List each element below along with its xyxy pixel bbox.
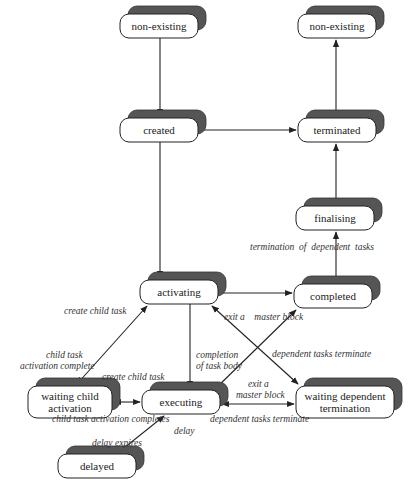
state-waiting-dependent: waiting dependenttermination xyxy=(296,378,402,418)
state-label: activating xyxy=(157,286,201,298)
edge-label-lbl-exit-master-2a: exit a xyxy=(248,379,269,389)
edge-label-lbl-create-child-2: create child task xyxy=(102,372,165,382)
state-activating: activating xyxy=(140,272,226,304)
state-label: delayed xyxy=(80,460,115,472)
state-label: executing xyxy=(160,396,203,408)
edge-label-lbl-delay: delay xyxy=(174,426,195,436)
edge-label-lbl-dep-terminate-1: dependent tasks terminate xyxy=(272,349,371,359)
state-non-existing-2: non-existing xyxy=(298,6,384,38)
edge-label-lbl-child-act-complete-1: child task xyxy=(46,350,83,360)
edge-label-lbl-completion-2: of task body xyxy=(196,361,243,371)
state-executing: executing xyxy=(142,382,228,414)
edge-label-lbl-completion-1: completion xyxy=(196,350,238,360)
edge-label-lbl-delay-expires: delay expires xyxy=(92,438,142,448)
state-created: created xyxy=(120,110,206,142)
state-non-existing-1: non-existing xyxy=(120,6,206,38)
edge-label-lbl-term-dep: termination of dependent tasks xyxy=(250,242,374,252)
state-waiting-child: waiting childactivation xyxy=(28,378,120,418)
state-label: terminated xyxy=(313,124,361,136)
state-label: completed xyxy=(310,290,356,302)
edge-label-lbl-child-act-complete-2: activation complete xyxy=(20,361,95,371)
state-finalising: finalising xyxy=(296,198,382,230)
state-delayed: delayed xyxy=(58,446,144,478)
edge-label-lbl-child-act-completes: child task activation completes xyxy=(52,414,170,424)
state-label: termination xyxy=(320,402,371,414)
state-label: activation xyxy=(48,402,92,414)
state-label: non-existing xyxy=(310,20,365,32)
edge-label-lbl-dep-terminate-2: dependent tasks terminate xyxy=(210,414,309,424)
state-terminated: terminated xyxy=(298,110,384,142)
edge-label-lbl-create-child-1: create child task xyxy=(64,306,127,316)
state-label: finalising xyxy=(314,212,356,224)
state-label: created xyxy=(143,124,175,136)
edge-label-lbl-exit-master-1: exit a master block xyxy=(224,312,304,322)
edge-label-lbl-exit-master-2b: master block xyxy=(236,390,286,400)
state-label: waiting child xyxy=(41,390,99,402)
state-completed: completed xyxy=(294,276,380,308)
state-label: non-existing xyxy=(132,20,187,32)
state-label: waiting dependent xyxy=(305,390,386,402)
state-diagram: non-existingnon-existingcreatedterminate… xyxy=(0,0,410,491)
